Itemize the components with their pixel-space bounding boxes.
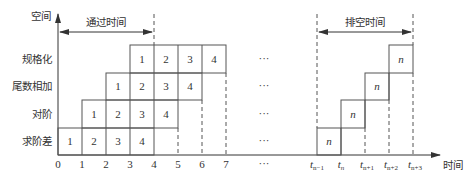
x-tick: tn−1 xyxy=(310,158,325,172)
x-tick: tn xyxy=(338,158,345,172)
task-cell: 4 xyxy=(187,80,193,92)
stage-labels: 规格化 尾数相加 对阶 求阶差 xyxy=(12,53,53,147)
x-axis-label: 时间 xyxy=(443,159,463,171)
pipeline-space-time-diagram: 空间 时间 规格化 尾数相加 对阶 求阶差 1 2 3 4 1 2 3 4 1 … xyxy=(0,0,465,182)
task-cell: n xyxy=(374,80,380,92)
x-tick: tn+2 xyxy=(384,158,399,172)
x-tick: 0 xyxy=(55,158,61,170)
x-tick: tn+3 xyxy=(408,158,423,172)
task-cell: 1 xyxy=(115,80,121,92)
task-cell: 2 xyxy=(115,108,121,120)
x-tick: 7 xyxy=(223,158,229,170)
task-cell: 4 xyxy=(139,135,145,147)
task-cell: 3 xyxy=(139,108,145,120)
task-cell: 3 xyxy=(187,53,193,65)
row-ellipsis: ··· xyxy=(259,79,270,91)
task-cell: n xyxy=(398,53,404,65)
drain-time-label: 排空时间 xyxy=(345,16,385,28)
x-tick: 6 xyxy=(199,158,205,170)
task-cell: 1 xyxy=(139,53,145,65)
task-cell: 2 xyxy=(91,135,97,147)
x-tick-labels-right: tn−1 tn tn+1 tn+2 tn+3 xyxy=(310,158,423,172)
task-cell: 1 xyxy=(91,108,97,120)
x-tick: 2 xyxy=(103,158,109,170)
y-axis-label: 空间 xyxy=(31,10,51,22)
x-tick-labels-left: 0 1 2 3 4 5 6 7 xyxy=(55,158,229,170)
task-cell: 2 xyxy=(163,53,169,65)
task-cell: 4 xyxy=(211,53,217,65)
stage-label: 求阶差 xyxy=(22,135,52,147)
task-cell: 4 xyxy=(163,108,169,120)
stage-label: 尾数相加 xyxy=(12,80,52,92)
x-tick: 5 xyxy=(175,158,181,170)
row-ellipsis: ··· xyxy=(259,134,270,146)
x-tick: 1 xyxy=(79,158,85,170)
x-tick: 4 xyxy=(151,158,157,170)
task-cell: 1 xyxy=(67,135,73,147)
task-cell: n xyxy=(350,108,356,120)
row-ellipsis: ··· xyxy=(259,52,270,64)
task-cell: n xyxy=(326,135,332,147)
axis-ellipsis: ··· xyxy=(259,157,270,169)
row-ellipsis: ··· xyxy=(259,107,270,119)
x-tick: 3 xyxy=(127,158,133,170)
stage-label: 规格化 xyxy=(22,53,53,65)
x-tick: tn+1 xyxy=(360,158,375,172)
task-cell: 2 xyxy=(139,80,145,92)
stage-label: 对阶 xyxy=(32,108,53,120)
ellipses: ··· ··· ··· ··· ··· xyxy=(259,52,270,169)
pass-time-label: 通过时间 xyxy=(86,16,126,28)
task-cell: 3 xyxy=(115,135,121,147)
task-cell: 3 xyxy=(163,80,169,92)
